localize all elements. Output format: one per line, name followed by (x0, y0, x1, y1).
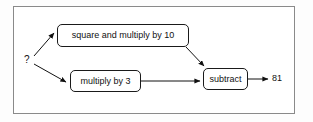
node-square-label: square and multiply by 10 (72, 31, 175, 40)
diagram-canvas: ? square and multiply by 10 multiply by … (0, 0, 313, 122)
edge-input-to-square (34, 33, 54, 56)
output-result-value: 81 (272, 74, 282, 83)
input-question-mark: ? (24, 55, 30, 65)
node-subtract-label: subtract (209, 75, 241, 84)
diagram-connectors (0, 0, 313, 122)
node-subtract[interactable]: subtract (203, 68, 248, 90)
edge-square-to-subtract (186, 47, 204, 66)
node-multiply-label: multiply by 3 (80, 77, 130, 86)
node-multiply-by-3[interactable]: multiply by 3 (70, 70, 141, 92)
node-square-and-multiply-by-10[interactable]: square and multiply by 10 (57, 24, 189, 47)
edge-input-to-multiply (34, 64, 66, 82)
